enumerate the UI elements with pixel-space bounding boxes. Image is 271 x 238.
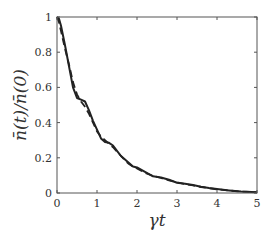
- y-tick-label: 0.8: [35, 46, 53, 59]
- line-chart: 012345 00.20.40.60.81 γt n̄(t)/n̄(0): [0, 0, 271, 238]
- y-tick-label: 1: [45, 11, 52, 24]
- plot-area: [57, 17, 257, 192]
- y-tick-label: 0.2: [35, 152, 53, 165]
- x-tick-label: 4: [214, 197, 221, 210]
- y-tick-label: 0: [45, 187, 52, 200]
- series-line-solid: [57, 17, 257, 192]
- x-tick-label: 1: [94, 197, 101, 210]
- x-tick-label: 2: [134, 197, 141, 210]
- x-tick-labels: 012345: [54, 197, 261, 210]
- x-tick-label: 0: [54, 197, 61, 210]
- y-tick-label: 0.4: [35, 117, 53, 130]
- y-tick-label: 0.6: [35, 81, 53, 94]
- y-axis-label: n̄(t)/n̄(0): [10, 69, 30, 141]
- x-tick-label: 5: [254, 197, 261, 210]
- x-axis-label: γt: [149, 210, 166, 230]
- x-tick-label: 3: [174, 197, 181, 210]
- y-tick-labels: 00.20.40.60.81: [35, 11, 53, 200]
